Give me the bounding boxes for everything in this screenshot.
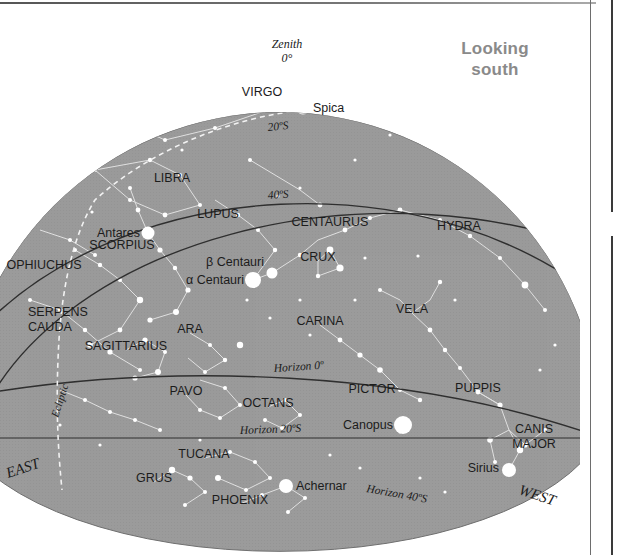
star-label-sirius: Sirius	[468, 461, 499, 475]
constellation-label-canis: CANIS	[515, 422, 553, 436]
constellation-label-hydra: HYDRA	[437, 219, 481, 233]
right-margin-rule	[590, 0, 591, 555]
label-dec-20s: 20ºS	[267, 119, 289, 133]
constellation-label-serpens: SERPENS	[28, 305, 88, 319]
label-zenith-degrees: 0°	[282, 51, 293, 65]
star-label-achernar: Achernar	[296, 479, 347, 493]
star-marker-beta-centauri	[267, 268, 278, 279]
constellation-label-phoenix: PHOENIX	[212, 493, 269, 507]
sidebar-box-top-edge	[611, 0, 613, 212]
sky-map: Zenith 0° 20ºS 40ºS Horizon 0º Horizon 2…	[0, 0, 580, 555]
star-label-alpha-centauri: α Centauri	[186, 273, 244, 287]
constellation-label-vela: VELA	[396, 302, 429, 316]
constellation-label-grus: GRUS	[136, 471, 172, 485]
constellation-label-carina: CARINA	[296, 314, 344, 328]
star-marker-achernar	[279, 479, 293, 493]
label-dec-40s: 40ºS	[267, 188, 289, 201]
constellation-label-pavo: PAVO	[170, 384, 203, 398]
constellation-label-virgo: VIRGO	[242, 85, 283, 99]
constellation-label-puppis: PUPPIS	[455, 381, 501, 395]
constellation-label-sagittarius: SAGITTARIUS	[85, 339, 167, 353]
label-zenith: Zenith	[272, 37, 303, 51]
star-marker-sirius	[502, 463, 516, 477]
constellation-label-lupus: LUPUS	[197, 207, 239, 221]
constellation-label-cauda: CAUDA	[28, 320, 72, 334]
figure-page: Looking south	[0, 0, 617, 555]
label-horizon-20s: Horizon 20ºS	[239, 422, 302, 436]
constellation-label-centaurus: CENTAURUS	[292, 215, 369, 229]
sidebar-box-bottom-edge	[611, 236, 613, 555]
star-marker-spica	[296, 100, 311, 115]
star-marker-canopus	[394, 416, 412, 434]
star-label-beta-centauri: β Centauri	[206, 255, 264, 269]
constellation-label-libra: LIBRA	[154, 171, 191, 185]
constellation-label-octans: OCTANS	[242, 396, 293, 410]
constellation-label-tucana: TUCANA	[178, 447, 230, 461]
constellation-label-major: MAJOR	[512, 437, 556, 451]
constellation-label-crux: CRUX	[300, 250, 336, 264]
constellation-label-scorpius: SCORPIUS	[89, 238, 154, 252]
star-label-spica: Spica	[313, 101, 344, 115]
constellation-label-ophiuchus: OPHIUCHUS	[6, 258, 81, 272]
star-label-antares: Antares	[97, 226, 140, 240]
star-label-canopus: Canopus	[343, 418, 393, 432]
constellation-label-ara: ARA	[177, 322, 203, 336]
constellation-label-pictor: PICTOR	[349, 382, 396, 396]
star-marker-alpha-centauri	[245, 272, 261, 288]
